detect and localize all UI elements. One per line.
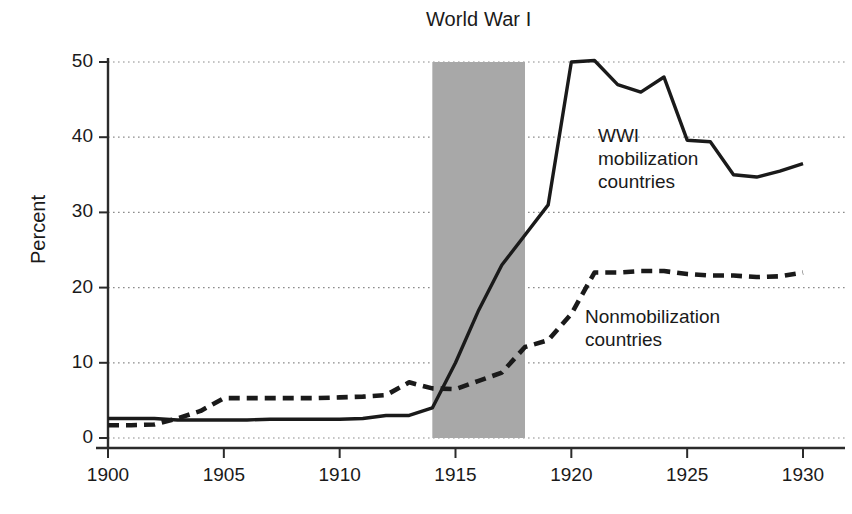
series-label-nonmob-line-2: countries <box>585 328 720 351</box>
y-tick-label-30: 30 <box>53 200 93 222</box>
x-tick-label-1925: 1925 <box>652 464 722 486</box>
x-tick-label-1905: 1905 <box>189 464 259 486</box>
series-label-wwi-line-3: countries <box>598 170 698 193</box>
y-tick-label-0: 0 <box>53 426 93 448</box>
y-tick-label-10: 10 <box>53 351 93 373</box>
series-label-nonmob-line-1: Nonmobilization <box>585 305 720 328</box>
chart-plot-area <box>0 0 852 514</box>
chart-figure: World War I Percent 50403020100 19001905… <box>0 0 852 514</box>
x-tick-label-1915: 1915 <box>421 464 491 486</box>
x-tick-label-1910: 1910 <box>305 464 375 486</box>
x-tick-label-1920: 1920 <box>536 464 606 486</box>
series-label-wwi-mobilization: WWI mobilization countries <box>598 124 698 194</box>
y-tick-label-50: 50 <box>53 50 93 72</box>
x-tick-label-1930: 1930 <box>768 464 838 486</box>
y-axis-title: Percent <box>27 170 50 290</box>
series-label-wwi-line-2: mobilization <box>598 147 698 170</box>
band-title-world-war-i: World War I <box>376 8 582 31</box>
y-tick-label-40: 40 <box>53 125 93 147</box>
y-tick-label-20: 20 <box>53 276 93 298</box>
series-label-wwi-line-1: WWI <box>598 124 698 147</box>
x-tick-label-1900: 1900 <box>73 464 143 486</box>
series-label-nonmobilization: Nonmobilization countries <box>585 305 720 351</box>
